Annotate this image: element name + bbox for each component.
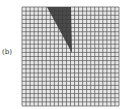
grid-diagram <box>0 0 126 109</box>
